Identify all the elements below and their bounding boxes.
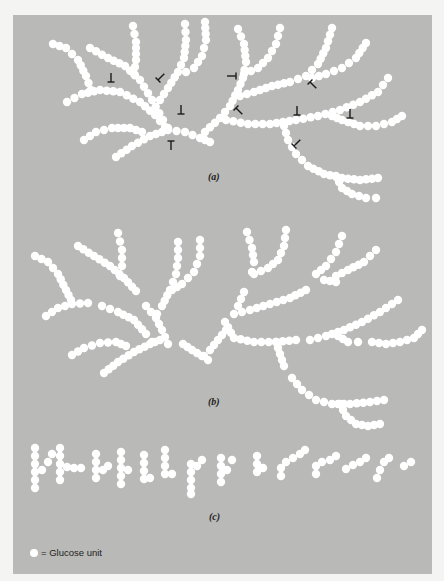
glucose-unit [161, 462, 169, 470]
glucose-unit [198, 456, 206, 464]
glucose-unit [314, 112, 322, 120]
glucose-unit [244, 120, 252, 128]
glucose-unit [174, 254, 182, 262]
glucose-unit [394, 296, 402, 304]
glucose-unit [259, 120, 267, 128]
glucose-unit [314, 60, 322, 68]
glucose-unit [190, 268, 198, 276]
glucose-unit [140, 451, 148, 459]
glucose-unit [132, 287, 140, 295]
glucose-unit-icon [30, 549, 38, 557]
glucose-unit [63, 98, 71, 106]
glucose-unit [251, 120, 259, 128]
glucose-unit [354, 338, 362, 346]
glucose-unit [301, 446, 309, 454]
glucose-unit [106, 305, 114, 313]
glucose-unit [362, 194, 370, 202]
glucose-unit [161, 454, 169, 462]
glucose-unit [187, 468, 195, 476]
glucose-unit [31, 460, 39, 468]
glucose-unit [418, 326, 426, 334]
glucose-unit [118, 262, 126, 270]
glucose-unit [277, 472, 285, 480]
glucose-unit [117, 456, 125, 464]
glucose-unit [373, 474, 381, 482]
glucose-unit [388, 118, 396, 126]
glucose-unit [193, 260, 201, 268]
glucose-unit [181, 128, 189, 136]
glucose-unit [196, 244, 204, 252]
glucose-unit [146, 474, 154, 482]
glucose-unit [68, 50, 76, 58]
glucose-unit [206, 138, 214, 146]
glucose-unit [292, 150, 300, 158]
glucose-unit [250, 338, 258, 346]
glucose-unit [364, 122, 372, 130]
glucose-unit [200, 352, 208, 360]
glucose-unit [201, 128, 209, 136]
glucose-unit [187, 490, 195, 498]
glucose-unit [306, 336, 314, 344]
glucose-unit [380, 120, 388, 128]
legend: = Glucose unit [30, 547, 102, 558]
glucose-unit [217, 454, 225, 462]
glycogen-diagram [0, 0, 444, 581]
glucose-unit [172, 127, 180, 135]
glucose-unit [237, 119, 245, 127]
glucose-unit [174, 238, 182, 246]
glucose-unit [92, 458, 100, 466]
glucose-unit [238, 308, 246, 316]
glucose-unit [294, 75, 302, 83]
glucose-unit [299, 115, 307, 123]
glucose-unit [184, 274, 192, 282]
glucose-unit [327, 255, 335, 263]
glucose-unit [312, 396, 320, 404]
glucose-unit [352, 54, 360, 62]
glucose-unit [98, 302, 106, 310]
glucose-unit [374, 174, 382, 182]
glucose-unit [92, 474, 100, 482]
glucose-unit [92, 450, 100, 458]
glucose-unit [276, 24, 284, 32]
glucose-unit [117, 480, 125, 488]
glucose-unit [243, 228, 251, 236]
glucose-unit [376, 420, 384, 428]
glucose-unit [122, 342, 130, 350]
glucose-unit [161, 446, 169, 454]
part-b-glycogen-fragments [31, 226, 426, 430]
glucose-unit [190, 64, 198, 72]
glucose-unit [31, 476, 39, 484]
glucose-unit [332, 272, 340, 280]
glucose-unit [266, 120, 274, 128]
glucose-unit [250, 258, 258, 266]
glucose-unit [379, 81, 387, 89]
glucose-unit [130, 70, 138, 78]
glucose-unit [56, 452, 64, 460]
glucose-unit [332, 452, 340, 460]
glucose-unit [38, 466, 46, 474]
glucose-unit [159, 116, 167, 124]
glucose-unit [31, 484, 39, 492]
glucose-unit [282, 226, 290, 234]
glucose-unit [314, 334, 322, 342]
glucose-unit [280, 362, 288, 370]
glucose-unit [320, 398, 328, 406]
glucose-unit [305, 391, 313, 399]
glucose-unit [182, 68, 190, 76]
glucose-unit [118, 254, 126, 262]
glucose-unit [196, 252, 204, 260]
glucose-unit [114, 229, 122, 237]
glucose-unit [76, 299, 84, 307]
glucose-unit [68, 300, 76, 308]
glucose-unit [335, 240, 343, 248]
glucose-unit [380, 396, 388, 404]
glucose-unit [250, 270, 258, 278]
glucose-unit [330, 67, 338, 75]
glucose-unit [376, 466, 384, 474]
glucose-unit [168, 470, 176, 478]
glucose-unit [372, 194, 380, 202]
glucose-unit [234, 25, 242, 33]
part-c-small-fragments [31, 444, 415, 498]
glucose-unit [84, 299, 92, 307]
glucose-unit [181, 20, 189, 28]
